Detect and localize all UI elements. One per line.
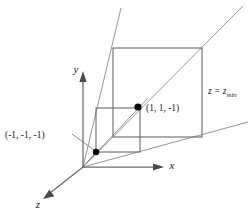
- vertex-dots: [93, 103, 142, 155]
- far-corner-label: (1, 1, -1): [146, 103, 179, 114]
- frustum-diagram: y x z (1, 1, -1) (-1, -1, -1) z = zmin: [0, 0, 250, 212]
- ray-upper-left: [83, 8, 121, 167]
- axes-group: [43, 71, 164, 199]
- far-plane-label-main: z = z: [207, 86, 227, 96]
- y-axis-arrowhead: [79, 71, 86, 82]
- z-axis-line: [50, 167, 83, 193]
- z-axis-label: z: [35, 198, 41, 210]
- y-axis-label: y: [73, 63, 79, 75]
- far-plane-label: z = zmin: [207, 86, 237, 97]
- ray-lower-right: [83, 122, 248, 167]
- x-axis-label: x: [169, 159, 175, 171]
- far-corner-point: [134, 103, 141, 110]
- near-corner-label: (-1, -1, -1): [5, 130, 45, 141]
- near-corner-point: [93, 149, 99, 155]
- x-axis-arrowhead: [153, 163, 164, 170]
- far-plane-label-subscript: min: [227, 90, 238, 97]
- figure-container: y x z (1, 1, -1) (-1, -1, -1) z = zmin: [0, 0, 250, 212]
